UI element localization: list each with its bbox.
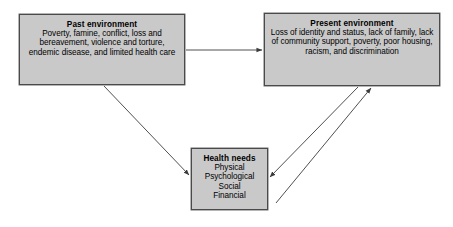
node-past-environment: Past environment Poverty, famine, confli…: [19, 14, 185, 85]
node-present-environment-body: Loss of identity and status, lack of fam…: [269, 28, 435, 56]
node-past-environment-body: Poverty, famine, conflict, loss and bere…: [24, 29, 180, 57]
node-past-environment-title: Past environment: [24, 20, 180, 29]
arrow-past-to-health: [104, 86, 189, 175]
node-health-needs: Health needs PhysicalPsychologicalSocial…: [191, 148, 268, 210]
node-present-environment-title: Present environment: [269, 19, 435, 28]
node-health-needs-body: PhysicalPsychologicalSocialFinancial: [194, 163, 265, 200]
node-present-environment: Present environment Loss of identity and…: [264, 13, 440, 86]
node-health-needs-title: Health needs: [194, 154, 265, 163]
arrow-health-to-present: [276, 88, 371, 203]
diagram-canvas: Past environment Poverty, famine, confli…: [0, 0, 453, 227]
arrow-present-to-health: [270, 87, 358, 177]
